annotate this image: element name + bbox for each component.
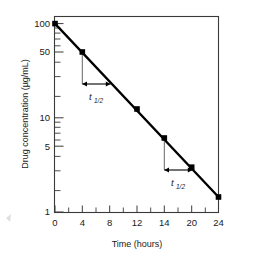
y-tick-label-100: 100 <box>34 18 50 29</box>
data-point-4h <box>80 49 86 55</box>
y-axis: 100 50 10 5 1 Drug concentration (µg/mL) <box>20 18 64 217</box>
data-point-24h <box>216 194 222 200</box>
half-life-2-arrowhead-left <box>164 168 169 173</box>
figure-semilog-drug-concentration: 100 50 10 5 1 Drug concentration (µg/mL) <box>0 0 256 263</box>
x-tick-label-20: 20 <box>186 217 197 228</box>
y-tick-label-5: 5 <box>45 141 50 152</box>
half-life-1-arrowhead-left <box>82 82 87 87</box>
x-tick-label-4: 4 <box>80 217 85 228</box>
x-tick-label-8: 8 <box>107 217 112 228</box>
x-tick-label-16: 14 <box>159 217 170 228</box>
data-point-12h <box>134 106 140 112</box>
plot-frame <box>55 17 219 213</box>
half-life-1-sublabel: 1/2 <box>94 97 103 104</box>
half-life-1-label: t <box>89 91 92 102</box>
half-life-2-label: t <box>171 177 174 188</box>
y-tick-label-50: 50 <box>39 46 50 57</box>
x-tick-label-24: 24 <box>213 217 224 228</box>
page-edge-artifact <box>6 214 11 222</box>
y-tick-label-1: 1 <box>45 206 50 217</box>
data-point-16h <box>162 135 168 141</box>
series-drug-concentration <box>52 21 221 200</box>
x-tick-label-0: 0 <box>52 217 57 228</box>
x-tick-label-12: 12 <box>132 217 143 228</box>
data-point-0h <box>52 21 58 27</box>
half-life-2-sublabel: 1/2 <box>176 183 185 190</box>
y-axis-title: Drug concentration (µg/mL) <box>20 59 30 169</box>
chart-canvas: 100 50 10 5 1 Drug concentration (µg/mL) <box>0 0 256 263</box>
y-tick-label-10: 10 <box>39 112 50 123</box>
x-axis-title: Time (hours) <box>112 239 163 249</box>
